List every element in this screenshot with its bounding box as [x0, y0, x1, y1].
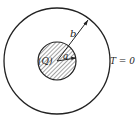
boundary-condition-label: T = 0 — [110, 56, 135, 66]
radius-b-label: b — [70, 28, 76, 39]
inner-region-label: (Q) — [38, 56, 53, 66]
radius-a-label: a — [63, 51, 68, 61]
concentric-circles-diagram: (Q) a b T = 0 — [0, 0, 137, 123]
